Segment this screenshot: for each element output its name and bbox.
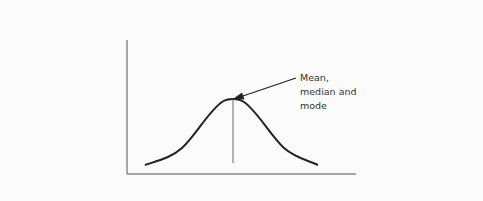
bell-curve [145, 99, 318, 165]
arrow-head-icon [233, 93, 245, 100]
normal-distribution-diagram [0, 0, 483, 201]
annotation-line-2: median and [300, 85, 357, 99]
annotation-line-1: Mean, [300, 71, 357, 85]
annotation-arrow [240, 78, 296, 97]
annotation-line-3: mode [300, 99, 357, 113]
annotation-label: Mean, median and mode [300, 71, 357, 113]
diagram-frame: Mean, median and mode [0, 0, 483, 201]
